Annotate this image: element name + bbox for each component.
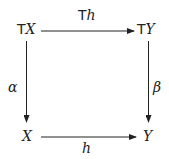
- node-top-left: TX: [17, 22, 36, 36]
- node-top-right: TY: [137, 22, 155, 36]
- label-bottom-arrow: h: [82, 141, 91, 155]
- label-right-arrow: β: [153, 80, 161, 94]
- label-left-arrow: α: [8, 80, 17, 94]
- commutative-diagram: TX TY X Y Th α β h: [0, 0, 169, 159]
- node-bottom-left: X: [22, 129, 32, 143]
- node-bottom-right: Y: [143, 129, 152, 143]
- label-top-arrow: Th: [78, 8, 96, 22]
